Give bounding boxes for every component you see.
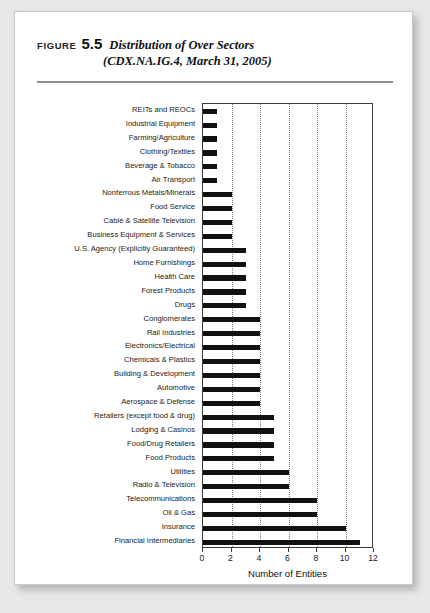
bar [203,456,274,461]
bar-row [203,354,372,369]
category-axis-labels: REITs and REOCsIndustrial EquipmentFarmi… [15,103,199,548]
category-label: Food Products [146,451,195,466]
bar-row [203,201,372,216]
bar [203,331,260,336]
bar [203,262,246,267]
category-label: Drugs [175,298,195,313]
category-label: Food Service [150,200,195,215]
bar-row [203,382,372,397]
category-label: Lodging & Casinos [131,423,195,438]
bar [203,123,217,128]
figure-subtitle-text: (CDX.NA.IG.4, March 31, 2005) [103,54,392,69]
category-label: Chemicals & Plastics [124,353,195,368]
chart-area: REITs and REOCsIndustrial EquipmentFarmi… [15,92,414,582]
x-tick-label: 2 [228,553,233,563]
x-tick-2 [231,548,232,552]
bar [203,345,260,350]
bar-row [203,146,372,161]
x-tick-label: 0 [200,553,205,563]
category-label: Business Equipment & Services [87,228,195,243]
bar-row [203,257,372,272]
x-tick-6 [288,548,289,552]
bar-row [203,396,372,411]
bar-row [203,438,372,453]
bar [203,540,360,545]
bar [203,164,217,169]
category-label: Insurance [162,520,195,535]
category-label: Health Care [154,270,195,285]
bar [203,275,246,280]
bar-row [203,104,372,119]
bar-row [203,327,372,342]
x-tick-8 [316,548,317,552]
x-tick-label: 10 [340,553,350,563]
bar-row [203,493,372,508]
bar [203,387,260,392]
category-label: Home Furnishings [133,256,195,271]
x-tick-10 [345,548,346,552]
category-label: Utilities [171,465,195,480]
bar-row [203,285,372,300]
bar-row [203,479,372,494]
bar [203,136,217,141]
category-label: Nonferrous Metals/Minerals [102,186,195,201]
bar-row [203,452,372,467]
plot-frame [202,103,373,548]
category-label: Telecommunications [126,492,195,507]
bar [203,289,246,294]
x-tick-label: 4 [257,553,262,563]
category-label: Industrial Equipment [126,117,195,132]
figure-title-text: Distribution of Over Sectors [109,38,254,53]
bar [203,512,317,517]
bar-row [203,271,372,286]
bar [203,178,217,183]
bar [203,317,260,322]
bar [203,248,246,253]
bar [203,109,217,114]
figure-label: FIGURE [37,40,77,51]
bar-row [203,424,372,439]
bar [203,484,289,489]
bar-row [203,132,372,147]
figure-card: FIGURE 5.5 Distribution of Over Sectors … [14,11,413,585]
category-label: Radio & Television [133,478,195,493]
bar [203,192,232,197]
bar-series [203,104,372,547]
category-label: Oil & Gas [163,506,196,521]
bar [203,359,260,364]
title-divider [37,81,393,83]
category-label: REITs and REOCs [132,103,195,118]
x-tick-12 [373,548,374,552]
bar-row [203,299,372,314]
bar [203,526,346,531]
category-label: Cable & Satellite Television [104,214,195,229]
category-label: Conglomerates [144,312,196,327]
bar [203,303,246,308]
bar-row [203,368,372,383]
bar-row [203,118,372,133]
category-label: Air Transport [152,173,195,188]
category-label: Automotive [157,381,195,396]
x-axis-title: Number of Entities [202,568,373,579]
bar-row [203,215,372,230]
bar [203,415,274,420]
bar-row [203,160,372,175]
bar [203,234,232,239]
bar [203,220,232,225]
figure-number: 5.5 [82,35,103,52]
bar [203,150,217,155]
bar [203,373,260,378]
x-tick-0 [202,548,203,552]
bar-row [203,313,372,328]
bar-row [203,521,372,536]
category-label: Building & Development [114,367,195,382]
bar-row [203,187,372,202]
figure-title-block: FIGURE 5.5 Distribution of Over Sectors … [37,35,392,69]
bar [203,470,289,475]
x-tick-label: 12 [368,553,378,563]
bar-row [203,340,372,355]
category-label: Rail Industries [147,326,195,341]
category-label: Electronics/Electrical [125,339,195,354]
category-label: Financial Intermediaries [114,534,195,549]
figure-title-line-1: FIGURE 5.5 Distribution of Over Sectors [37,35,392,53]
